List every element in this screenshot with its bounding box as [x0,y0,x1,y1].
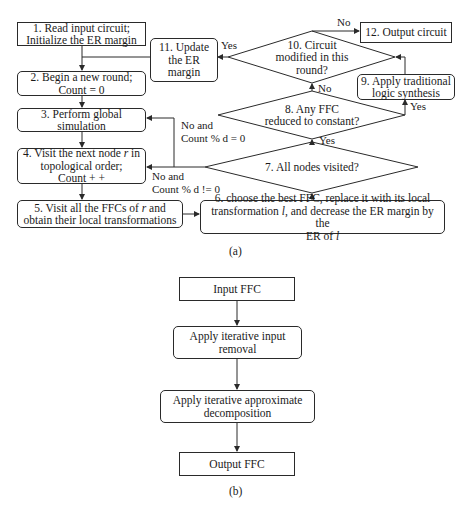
step-10-line2: modified in this [276,51,349,64]
input-ffc-box: Input FFC [179,277,295,301]
step-9-line1: 9. Apply traditional [361,75,451,88]
step-5-visit-ffcs: 5. Visit all the FFCs of r and obtain th… [17,200,183,228]
step-11-update-er-margin: 11. Update the ER margin [150,38,218,82]
step-4-line2: topological order; [40,160,122,173]
step-12-output-circuit: 12. Output circuit [360,22,452,43]
step-3-line1: 3. Perform global [41,108,122,121]
step-3-line2: simulation [57,120,106,133]
edge-label-8-yes: Yes [410,100,426,113]
b3-line2: decomposition [204,407,272,420]
step-5-line1: 5. Visit all the FFCs of r and [34,202,165,215]
edge-label-10-yes: Yes [221,39,237,52]
step-2-line1: 2. Begin a new round; [31,71,133,84]
step-6-line3: ER of l [306,230,339,243]
step-8-line2: reduced to constant? [265,115,360,128]
edge-label-8-no: No [318,82,331,95]
step-5-line2: obtain their local transformations [24,214,177,227]
step-2-begin-round: 2. Begin a new round; Count = 0 [17,71,146,96]
step-3-global-simulation: 3. Perform global simulation [17,108,146,132]
step-1-read-input: 1. Read input circuit; Initialize the ER… [17,22,146,46]
b2-line1: Apply iterative input [190,330,286,343]
step-1-line2: Initialize the ER margin [26,34,137,47]
b2-line2: removal [219,343,257,356]
step-10-circuit-modified: 10. Circuit modified in this round? [262,38,362,77]
step-6-choose-best-ffc: 6. choose the best FFC, replace it with … [200,200,445,234]
caption-a: (a) [229,245,242,257]
edge-label-7-no-mod-nonzero: No and Count % d != 0 [152,170,220,195]
step-10-line3: round? [296,64,328,77]
iterative-approx-decomposition-box: Apply iterative approximate decompositio… [160,390,315,423]
step-6-line1: 6. choose the best FFC, replace it with … [215,192,431,205]
step-9-traditional-synthesis: 9. Apply traditional logic synthesis [357,74,455,100]
step-7-all-nodes-visited: 7. All nodes visited? [240,160,384,175]
step-6-line2: transformation l, and decrease the ER ma… [203,205,442,230]
caption-b: (b) [229,485,242,497]
step-4-line1: 4. Visit the next node r in [23,147,140,160]
step-8-line1: 8. Any FFC [285,103,339,116]
step-8-ffc-reduced: 8. Any FFC reduced to constant? [250,102,374,128]
output-ffc-box: Output FFC [179,452,295,476]
step-11-line3: margin [168,66,200,79]
step-10-line1: 10. Circuit [287,39,336,52]
edge-label-7-no-mod-zero: No and Count % d = 0 [181,119,245,144]
edge-label-10-no: No [337,16,350,29]
iterative-input-removal-box: Apply iterative input removal [173,326,302,359]
step-4-visit-next-node: 4. Visit the next node r in topological … [17,148,146,184]
step-9-line2: logic synthesis [372,87,440,100]
b3-line1: Apply iterative approximate [173,394,303,407]
edge-label-7-yes: Yes [319,134,335,147]
step-4-line3: Count + + [58,172,105,185]
step-11-line1: 11. Update [159,41,209,54]
step-1-line1: 1. Read input circuit; [33,22,130,35]
step-2-line2: Count = 0 [58,84,104,97]
step-11-line2: the ER [168,54,200,67]
